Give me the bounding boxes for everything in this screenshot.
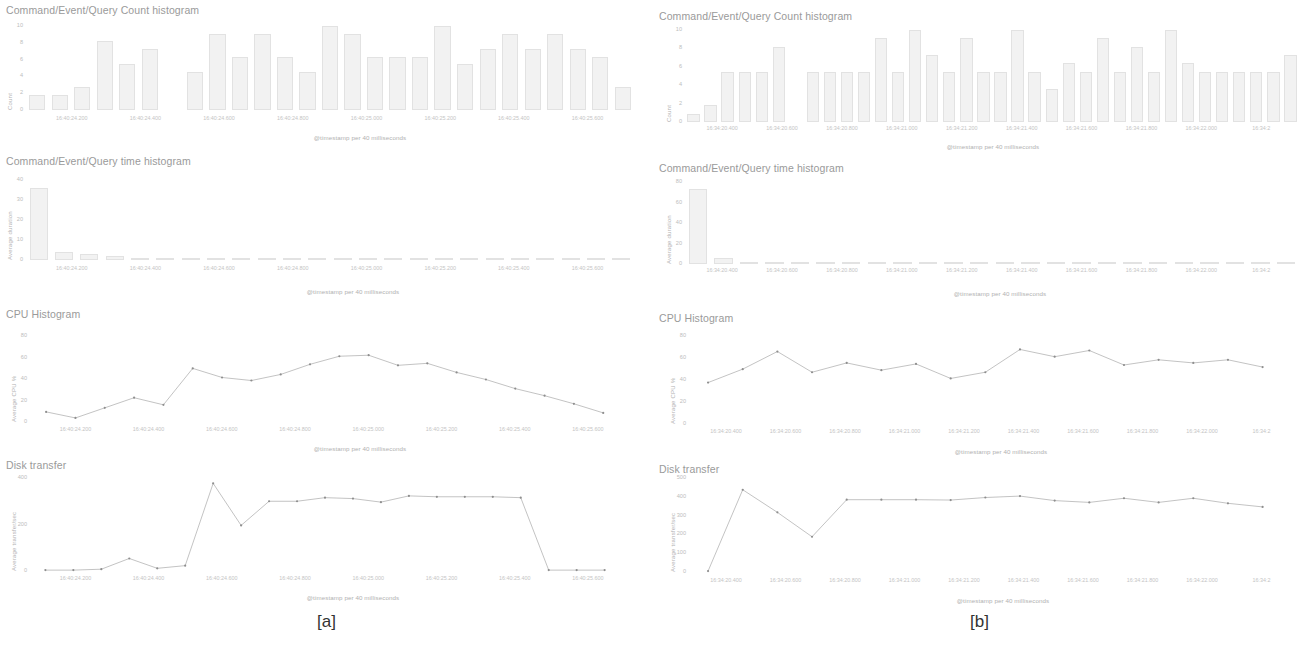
x-axis-tick: 16:34:20.600	[766, 126, 797, 131]
x-axis-tick: 16:34:21.400	[1008, 429, 1039, 434]
bar	[994, 72, 1006, 122]
plot-area	[26, 180, 634, 260]
bar	[258, 258, 276, 260]
bar	[106, 256, 124, 260]
panel-caption-a: [a]	[0, 612, 653, 632]
bar	[1175, 262, 1193, 264]
x-axis-tick: 16:34:20.400	[706, 126, 737, 131]
bar	[1226, 262, 1244, 264]
bar	[55, 252, 73, 260]
bar	[156, 258, 174, 260]
x-axis-tick: 16:40:25.600	[572, 266, 603, 271]
bar	[502, 34, 518, 110]
bar	[480, 49, 496, 110]
x-axis-tick: 16:40:24.200	[56, 116, 87, 121]
y-axis-tick: 40	[669, 220, 682, 226]
bar	[909, 30, 921, 122]
x-axis-label: @timestamp per 40 milliseconds	[307, 288, 400, 295]
x-axis-tick: 16:34:21.000	[889, 429, 920, 434]
x-axis-label: @timestamp per 40 milliseconds	[947, 143, 1040, 150]
bar	[1011, 30, 1023, 122]
y-axis-tick: 500	[673, 475, 686, 481]
bar	[1182, 63, 1194, 122]
x-axis-tick: 16:40:24.400	[130, 266, 161, 271]
line-series	[689, 478, 1299, 572]
x-axis-tick: 16:34:20.400	[710, 429, 741, 434]
bar	[1149, 262, 1167, 264]
x-axis-tick: 16:34:20.800	[829, 578, 860, 583]
y-axis-tick: 10	[669, 27, 682, 33]
x-axis-tick: 16:40:25.600	[572, 427, 603, 432]
bar	[1097, 38, 1109, 122]
x-axis-tick: 16:34:21.200	[946, 126, 977, 131]
plot-area	[26, 26, 634, 110]
bar	[486, 258, 504, 260]
bar	[816, 262, 834, 264]
x-axis-tick: 16:34:21.200	[948, 578, 979, 583]
x-axis-tick: 16:40:25.000	[352, 576, 383, 581]
x-axis-tick: 16:40:25.400	[499, 576, 530, 581]
chart-title: Command/Event/Query time histogram	[659, 162, 844, 174]
bar	[410, 258, 428, 260]
chart-title: Command/Event/Query Count histogram	[6, 4, 199, 16]
bar	[460, 258, 478, 260]
bar	[615, 87, 631, 110]
x-axis-tick: 16:40:25.400	[498, 266, 529, 271]
bar	[1080, 72, 1092, 122]
x-axis-tick: 16:40:24.400	[133, 576, 164, 581]
bar	[1284, 55, 1296, 122]
bar	[283, 258, 301, 260]
x-axis-label: @timestamp per 40 milliseconds	[314, 134, 407, 141]
bar	[944, 262, 962, 264]
bar	[207, 258, 225, 260]
y-axis-tick: 60	[14, 355, 27, 361]
x-axis-tick: 16:34:22.000	[1186, 429, 1217, 434]
x-axis-tick: 16:34:21.600	[1067, 578, 1098, 583]
bar	[434, 26, 450, 110]
x-axis-tick: 16:34:21.400	[1008, 578, 1039, 583]
y-axis-tick: 300	[673, 513, 686, 519]
bar	[1267, 72, 1279, 122]
bar	[807, 72, 819, 122]
y-axis-tick: 0	[14, 419, 27, 425]
bar	[52, 95, 68, 110]
x-axis-tick: 16:40:25.000	[351, 116, 382, 121]
y-axis-tick: 20	[669, 241, 682, 247]
bar	[457, 64, 473, 110]
dashboard-figure: [a]Command/Event/Query Count histogramCo…	[0, 0, 1306, 651]
x-axis-label: @timestamp per 40 milliseconds	[314, 445, 407, 452]
x-axis-tick: 16:34:20.600	[770, 429, 801, 434]
bar	[570, 49, 586, 110]
bar	[547, 34, 563, 110]
y-axis-tick: 0	[14, 568, 27, 574]
bar	[689, 189, 707, 264]
x-axis-tick: 16:40:24.200	[56, 266, 87, 271]
bar	[765, 262, 783, 264]
x-axis-label: @timestamp per 40 milliseconds	[955, 448, 1048, 455]
y-axis-tick: 200	[14, 522, 27, 528]
x-axis-tick: 16:40:24.600	[206, 427, 237, 432]
bar	[384, 258, 402, 260]
x-axis-tick: 16:40:24.800	[279, 576, 310, 581]
y-axis-tick: 20	[14, 398, 27, 404]
x-axis-tick: 16:40:24.800	[277, 266, 308, 271]
x-axis-tick: 16:40:25.000	[352, 427, 383, 432]
bar	[943, 72, 955, 122]
x-axis-tick: 16:34:21.800	[1126, 268, 1157, 273]
bar	[919, 262, 937, 264]
bar	[704, 105, 716, 122]
x-axis-tick: 16:34:20.600	[770, 578, 801, 583]
x-axis-tick: 16:34:20.800	[826, 126, 857, 131]
bar	[1216, 72, 1228, 122]
panel-b: [b]Command/Event/Query Count histogramCo…	[653, 0, 1306, 651]
x-axis-tick: 16:40:24.800	[277, 116, 308, 121]
bar	[875, 38, 887, 122]
x-axis-tick: 16:40:25.400	[498, 116, 529, 121]
y-axis-tick: 10	[10, 237, 23, 243]
bar	[841, 72, 853, 122]
x-axis-tick: 16:40:25.400	[499, 427, 530, 432]
chart-title: Disk transfer	[6, 459, 66, 471]
x-axis-tick: 16:40:25.200	[426, 576, 457, 581]
x-axis-tick: 16:34:21.200	[946, 268, 977, 273]
bar	[1063, 63, 1075, 122]
